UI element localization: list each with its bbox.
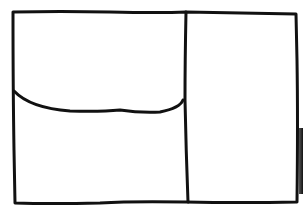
wireframe-sketch (0, 0, 303, 211)
left-bottom-panel (15, 114, 186, 201)
scan-edge-shadow (299, 128, 303, 194)
curved-divider (14, 91, 183, 112)
left-top-panel (15, 14, 184, 94)
right-panel (189, 15, 295, 201)
